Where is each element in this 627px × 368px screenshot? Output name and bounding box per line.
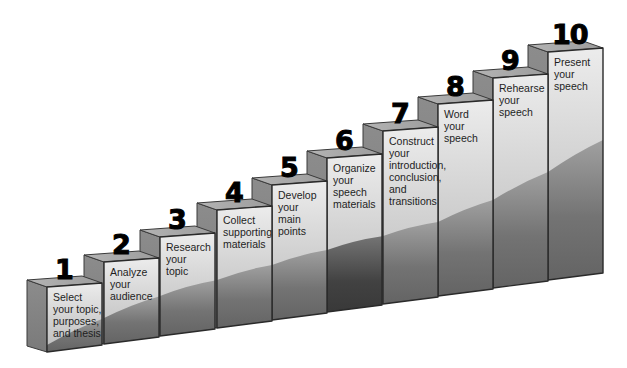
step-label-7: Construct your introduction, conclusion,… [389,135,445,207]
step-number-4: 4 [225,179,243,206]
step-label-8: Word your speech [444,108,500,144]
step-label-1: Select your topic, purposes, and thesis [53,291,109,339]
step-label-4: Collect supporting materials [223,214,279,250]
step-number-10: 10 [552,21,588,48]
step-label-5: Develop your main points [278,189,334,237]
step-number-9: 9 [501,47,519,74]
step-number-8: 8 [446,73,464,100]
step-number-5: 5 [280,154,298,181]
step-label-2: Analyze your audience [110,266,166,302]
step-number-1: 1 [55,256,73,283]
step-side-face [27,280,47,352]
step-number-3: 3 [168,206,186,233]
step-number-7: 7 [391,100,409,127]
step-label-9: Rehearse your speech [499,82,555,118]
step-number-6: 6 [335,127,353,154]
step-number-2: 2 [112,231,130,258]
step-shade-band [327,236,382,312]
speech-steps-staircase: 10Present your speech9Rehearse your spee… [0,0,627,368]
step-shade-band [383,222,438,304]
step-label-6: Organize your speech materials [333,162,389,210]
step-label-3: Research your topic [166,241,222,277]
step-label-10: Present your speech [554,56,610,92]
